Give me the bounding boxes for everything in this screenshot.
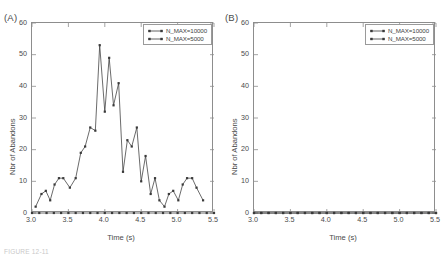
figure-caption: FIGURE 12-11 bbox=[4, 248, 49, 255]
x-tick-label: 5.0 bbox=[165, 215, 189, 224]
y-tick-label: 30 bbox=[5, 113, 27, 122]
y-tick-label: 40 bbox=[227, 81, 249, 90]
data-plot-a bbox=[32, 23, 214, 213]
y-tick-label: 60 bbox=[227, 18, 249, 27]
legend-item[interactable]: N_MAX=5000 bbox=[147, 35, 208, 43]
x-tick-label: 4.5 bbox=[350, 215, 374, 224]
x-tick-label: 4.5 bbox=[128, 215, 152, 224]
x-tick-label: 5.0 bbox=[387, 215, 411, 224]
x-tick-label: 3.0 bbox=[241, 215, 265, 224]
legend-label: N_MAX=10000 bbox=[166, 27, 207, 35]
y-tick-label: 30 bbox=[227, 113, 249, 122]
legend-item[interactable]: N_MAX=10000 bbox=[147, 27, 208, 35]
legend-item[interactable]: N_MAX=10000 bbox=[369, 27, 430, 35]
legend-a: N_MAX=10000N_MAX=5000 bbox=[143, 24, 212, 45]
legend-line-marker-icon bbox=[369, 35, 386, 43]
y-tick-label: 50 bbox=[227, 49, 249, 58]
x-tick-label: 3.0 bbox=[19, 215, 43, 224]
legend-line-marker-icon bbox=[369, 27, 386, 35]
figure-container: (A) Nbr of Abandons Time (s) 01020304050… bbox=[0, 0, 443, 264]
legend-b: N_MAX=10000N_MAX=5000 bbox=[365, 24, 434, 45]
legend-line-marker-icon bbox=[147, 35, 164, 43]
y-tick-label: 10 bbox=[227, 176, 249, 185]
plot-area-a bbox=[31, 22, 213, 212]
y-tick-label: 60 bbox=[5, 18, 27, 27]
x-tick-label: 3.5 bbox=[277, 215, 301, 224]
y-tick-label: 50 bbox=[5, 49, 27, 58]
y-tick-label: 20 bbox=[5, 144, 27, 153]
x-tick-label: 4.0 bbox=[92, 215, 116, 224]
y-tick-label: 40 bbox=[5, 81, 27, 90]
plot-area-b bbox=[253, 22, 435, 212]
x-axis-label-a: Time (s) bbox=[71, 233, 171, 242]
x-tick-label: 4.0 bbox=[314, 215, 338, 224]
y-tick-label: 10 bbox=[5, 176, 27, 185]
legend-line-marker-icon bbox=[147, 27, 164, 35]
x-axis-label-b: Time (s) bbox=[293, 233, 393, 242]
x-tick-label: 5.5 bbox=[423, 215, 443, 224]
legend-label: N_MAX=5000 bbox=[166, 35, 204, 43]
legend-item[interactable]: N_MAX=5000 bbox=[369, 35, 430, 43]
data-plot-b bbox=[254, 23, 436, 213]
legend-label: N_MAX=10000 bbox=[388, 27, 429, 35]
chart-panel-b: (B) Nbr of Abandons Time (s) 01020304050… bbox=[222, 0, 443, 246]
y-tick-label: 20 bbox=[227, 144, 249, 153]
legend-label: N_MAX=5000 bbox=[388, 35, 426, 43]
chart-panel-a: (A) Nbr of Abandons Time (s) 01020304050… bbox=[0, 0, 222, 246]
x-tick-label: 3.5 bbox=[55, 215, 79, 224]
